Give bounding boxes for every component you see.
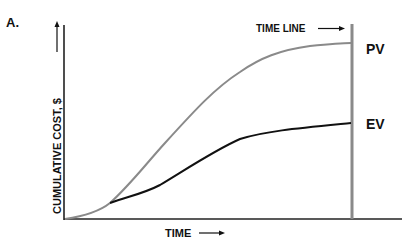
y-arrowhead-icon — [55, 21, 60, 27]
pv-label: PV — [366, 41, 385, 57]
pv-line — [65, 43, 351, 219]
ev-label: EV — [366, 116, 385, 132]
x-axis-label: TIME — [165, 227, 191, 239]
earned-value-chart: A. CUMULATIVE COST, $ TIME TIME LINE PV … — [0, 0, 416, 250]
y-axis-label: CUMULATIVE COST, $ — [51, 98, 63, 214]
panel-label: A. — [6, 15, 19, 30]
timeline-label: TIME LINE — [256, 23, 306, 34]
y-axis-label-group: CUMULATIVE COST, $ — [51, 98, 63, 214]
timeline-arrowhead-icon — [339, 26, 345, 31]
timeline-marker — [351, 24, 354, 219]
x-arrowhead-icon — [219, 231, 225, 236]
